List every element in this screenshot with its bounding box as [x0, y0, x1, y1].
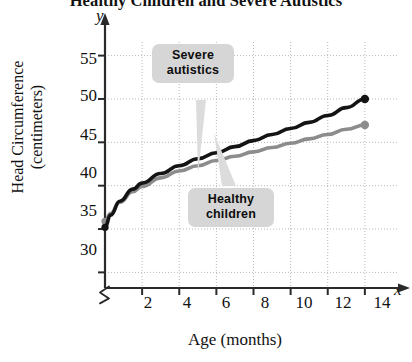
annotation-line-1: Healthy [195, 192, 267, 207]
axes [100, 13, 410, 303]
gridlines [105, 42, 397, 288]
annotation-line-2: autistics [159, 63, 227, 78]
annotation-severe-autistics: Severe autistics [152, 44, 234, 83]
annotation-line-2: children [195, 207, 267, 222]
annotation-healthy-children: Healthy children [188, 188, 274, 227]
annotation-line-1: Severe [159, 48, 227, 63]
chart-figure: Healthy Children and Severe Autistics He… [0, 0, 412, 362]
callout-pointers [196, 100, 236, 186]
